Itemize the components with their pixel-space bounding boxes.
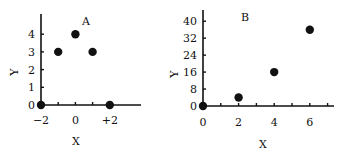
y-tick-label: 3 <box>28 46 35 59</box>
y-tick-label: 1 <box>28 81 35 94</box>
y-axis-label: Y <box>8 68 21 77</box>
y-axis-label: Y <box>168 70 181 79</box>
data-point <box>306 25 314 33</box>
y-tick-label: 32 <box>183 32 197 45</box>
chart-canvas: −20+201234AYX02460816243240BYX <box>0 0 346 162</box>
data-point <box>88 48 96 56</box>
chart-title: B <box>241 11 249 24</box>
chart-title: A <box>81 15 91 28</box>
x-tick-label: −2 <box>33 114 49 127</box>
y-tick-label: 16 <box>183 66 197 79</box>
x-tick-label: 0 <box>72 114 79 127</box>
x-tick-label: 2 <box>235 116 242 129</box>
chart-a: −20+201234AYX <box>8 14 141 148</box>
x-axis-label: X <box>259 138 267 151</box>
x-tick-label: 4 <box>271 116 278 129</box>
y-tick-label: 40 <box>183 15 197 28</box>
y-tick-label: 4 <box>28 28 35 41</box>
y-tick-label: 24 <box>183 49 197 62</box>
y-tick-label: 0 <box>28 99 35 112</box>
chart-b: 02460816243240BYX <box>168 10 334 151</box>
data-point <box>71 30 79 38</box>
x-axis-label: X <box>72 135 80 148</box>
data-point <box>270 68 278 76</box>
x-tick-label: 6 <box>306 116 313 129</box>
data-point <box>199 102 207 110</box>
data-point <box>54 48 62 56</box>
y-tick-label: 0 <box>190 100 197 113</box>
y-tick-label: 2 <box>28 64 35 77</box>
y-tick-label: 8 <box>190 83 197 96</box>
x-tick-label: 0 <box>200 116 207 129</box>
data-point <box>37 101 45 109</box>
data-point <box>234 93 242 101</box>
x-tick-label: +2 <box>102 114 118 127</box>
data-point <box>106 101 114 109</box>
